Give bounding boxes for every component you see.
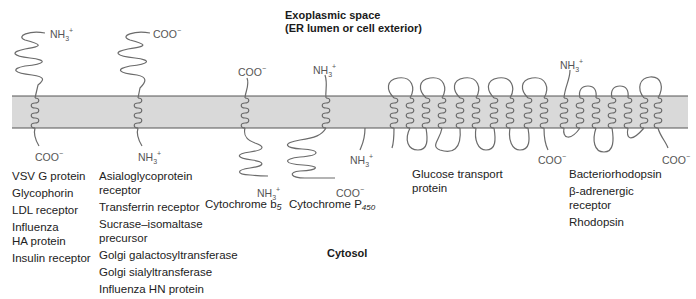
type1-protein-list: VSV G protein Glycophorin LDL receptor I…	[12, 169, 91, 268]
n-terminus-type2: NH3+	[138, 150, 161, 165]
b5-name: Cytochrome b	[205, 198, 277, 210]
cytochrome-b5-label: Cytochrome b5	[205, 197, 282, 214]
exoplasmic-line-1: Exoplasmic space	[285, 9, 422, 22]
protein-name: receptor	[569, 198, 662, 212]
cytosol-label: Cytosol	[327, 247, 367, 260]
n-terminus-p450: NH3+	[313, 63, 336, 78]
protein-name: Bacteriorhodopsin	[569, 167, 662, 181]
type2-protein-list: Asialoglycoprotein receptor Transferrin …	[99, 169, 238, 299]
glucose-transporter-label: Glucose transport protein	[412, 167, 503, 198]
protein-name: Rhodopsin	[569, 215, 662, 229]
glut-line-2: protein	[412, 181, 503, 195]
7tm-protein-list: Bacteriorhodopsin β-adrenergic receptor …	[569, 167, 662, 232]
c-terminus-glut: COO−	[538, 153, 566, 166]
cytochrome-p450-label: Cytochrome P450	[289, 197, 375, 215]
n-terminus-p450-cyt: NH3+	[350, 153, 373, 168]
c-terminus-b5: COO−	[238, 65, 266, 78]
protein-name: β-adrenergic	[569, 184, 662, 198]
protein-name: Insulin receptor	[12, 251, 91, 265]
n-terminus-7tm: NH3+	[560, 58, 583, 73]
b5-sub: 5	[277, 202, 282, 212]
c-terminus-type2: COO−	[153, 27, 181, 40]
protein-name: LDL receptor	[12, 203, 91, 217]
protein-name: precursor	[99, 231, 238, 245]
p450-name: Cytochrome P	[289, 198, 362, 210]
exoplasmic-line-2: (ER lumen or cell exterior)	[285, 22, 422, 35]
protein-name: receptor	[99, 183, 238, 197]
protein-name: Influenza HN protein	[99, 282, 238, 296]
protein-name: Asialoglycoprotein	[99, 169, 238, 183]
protein-name: Influenza	[12, 220, 91, 234]
exoplasmic-space-label: Exoplasmic space (ER lumen or cell exter…	[285, 9, 422, 35]
n-terminus-type1: NH3+	[50, 27, 73, 42]
p450-sub: 450	[362, 203, 375, 212]
c-terminus-type1: COO−	[35, 150, 63, 163]
lipid-bilayer	[12, 96, 688, 128]
glut-line-1: Glucose transport	[412, 167, 503, 181]
protein-name: Glycophorin	[12, 186, 91, 200]
protein-name: VSV G protein	[12, 169, 91, 183]
protein-name: Golgi sialyltransferase	[99, 265, 238, 279]
protein-name: Sucrase–isomaltase	[99, 217, 238, 231]
c-terminus-7tm: COO−	[662, 153, 690, 166]
protein-name: HA protein	[12, 234, 91, 248]
protein-name: Golgi galactosyltransferase	[99, 248, 238, 262]
